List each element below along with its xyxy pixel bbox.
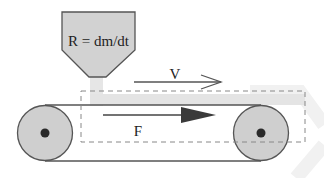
right-pulley — [234, 106, 289, 161]
sand-layer — [90, 94, 305, 105]
velocity-label: V — [170, 66, 181, 82]
force-label: F — [134, 123, 142, 139]
force-arrow — [103, 107, 216, 123]
left-pulley — [18, 106, 73, 161]
left-pulley-hub — [41, 129, 50, 138]
hopper-label: R = dm/dt — [68, 33, 130, 49]
right-pulley-hub — [257, 129, 266, 138]
conveyor-belt-diagram: R = dm/dt V F — [0, 0, 324, 178]
